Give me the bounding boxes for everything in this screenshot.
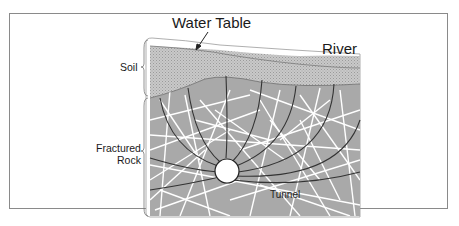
fractured-rock-label-line2: Rock	[117, 155, 141, 166]
tunnel-label: Tunnel	[270, 190, 300, 200]
cross-section-diagram	[0, 0, 459, 226]
tunnel-opening	[215, 159, 239, 183]
soil-label: Soil	[120, 62, 138, 73]
water-table-label: Water Table	[172, 15, 251, 30]
fractured-rock-label-line1: Fractured	[96, 143, 141, 154]
geologic-block	[146, 38, 360, 217]
river-label: River	[322, 41, 357, 56]
